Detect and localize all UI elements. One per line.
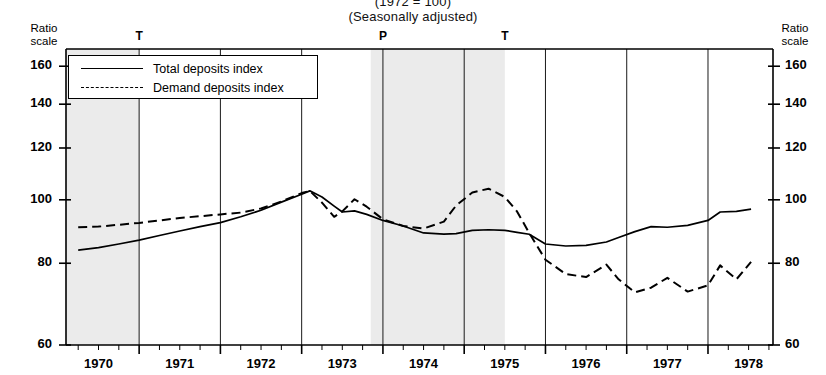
x-axis-label-1976: 1976 (556, 356, 616, 371)
chart-root: (1972 = 100) (Seasonally adjusted) Ratio… (0, 0, 826, 375)
x-axis-label-1977: 1977 (637, 356, 697, 371)
bottom-axis-ticks-group (78, 345, 769, 354)
right-axis-label-100: 100 (785, 191, 819, 206)
right-axis-label-140: 140 (785, 95, 819, 110)
right-axis-ticks-group (768, 66, 780, 345)
x-axis-label-1974: 1974 (394, 356, 454, 371)
cycle-marker-p-1: P (375, 29, 391, 43)
x-axis-label-1973: 1973 (312, 356, 372, 371)
legend-item-demand-deposits: Demand deposits index (69, 79, 317, 97)
x-axis-label-1971: 1971 (150, 356, 210, 371)
cycle-marker-t-2: T (497, 29, 513, 43)
right-axis-label-80: 80 (785, 254, 819, 269)
cycle-marker-t-0: T (131, 29, 147, 43)
x-axis-label-1970: 1970 (69, 356, 129, 371)
left-axis-label-120: 120 (18, 139, 52, 154)
recession-band-1 (371, 49, 505, 345)
x-axis-label-1975: 1975 (475, 356, 535, 371)
legend-line-dashed-icon (81, 82, 143, 94)
right-axis-label-60: 60 (785, 336, 819, 351)
left-axis-label-140: 140 (18, 95, 52, 110)
legend-label-total-deposits: Total deposits index (153, 62, 263, 76)
left-axis-label-60: 60 (18, 336, 52, 351)
legend-item-total-deposits: Total deposits index (69, 60, 317, 78)
x-axis-label-1972: 1972 (231, 356, 291, 371)
right-axis-label-120: 120 (785, 139, 819, 154)
left-axis-label-160: 160 (18, 57, 52, 72)
right-axis-label-160: 160 (785, 57, 819, 72)
x-axis-label-1978: 1978 (719, 356, 779, 371)
legend: Total deposits index Demand deposits ind… (68, 55, 318, 99)
legend-label-demand-deposits: Demand deposits index (153, 81, 284, 95)
left-axis-label-80: 80 (18, 254, 52, 269)
left-axis-label-100: 100 (18, 191, 52, 206)
legend-line-solid-icon (81, 63, 143, 75)
